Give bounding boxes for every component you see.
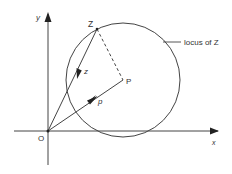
point-z-dot <box>96 28 99 31</box>
point-z-label: Z <box>88 19 93 29</box>
point-p-label: P <box>126 77 131 86</box>
diagram-canvas: y x O Z P z p locus of Z <box>0 0 232 174</box>
locus-diagram: y x O Z P z p locus of Z <box>0 0 232 174</box>
vector-z-label: z <box>83 67 88 76</box>
x-axis-arrow-icon <box>210 128 219 135</box>
y-axis-arrow-icon <box>45 12 52 22</box>
origin-dot <box>47 130 50 133</box>
y-axis-label: y <box>35 13 41 22</box>
radius-zp-dashed <box>97 29 123 80</box>
vector-z-arrow-icon <box>77 68 82 79</box>
origin-label: O <box>38 134 44 143</box>
y-axis <box>45 12 52 165</box>
x-axis <box>14 128 219 135</box>
x-axis-label: x <box>211 139 216 146</box>
vector-p-label: p <box>97 97 103 106</box>
locus-annotation: locus of Z <box>184 38 219 47</box>
vector-z <box>48 29 97 131</box>
